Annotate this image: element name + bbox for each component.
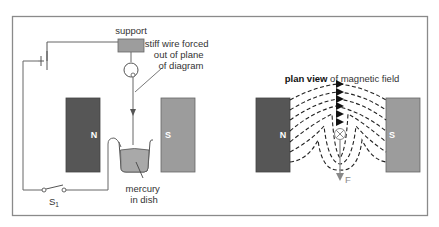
switch-icon [42, 185, 66, 192]
south-pole-label: S [165, 130, 171, 140]
plan-view-title: plan view of magnetic field [285, 73, 400, 84]
arrow-down-icon [130, 109, 136, 116]
force-label: F [345, 174, 351, 185]
mercury-label: mercury in dish [126, 183, 163, 205]
support-block [118, 39, 144, 52]
field-arrowheads [336, 80, 344, 126]
diagram-canvas: S1 support stiff wire forced out of plan… [0, 0, 439, 227]
north-pole-label: N [91, 130, 98, 140]
mercury-dish [119, 140, 153, 172]
force-arrowhead-icon [336, 173, 344, 181]
apparatus-diagram: S1 support stiff wire forced out of plan… [23, 25, 211, 208]
battery-icon [38, 42, 47, 70]
north-pole-label-plan: N [280, 130, 287, 140]
switch-label: S1 [49, 196, 59, 208]
support-label: support [115, 25, 147, 36]
south-pole-label-plan: S [389, 130, 395, 140]
plan-view-diagram: plan view of magnetic field N S [256, 73, 420, 185]
wire-label: stiff wire forced out of plane of diagra… [145, 38, 211, 71]
